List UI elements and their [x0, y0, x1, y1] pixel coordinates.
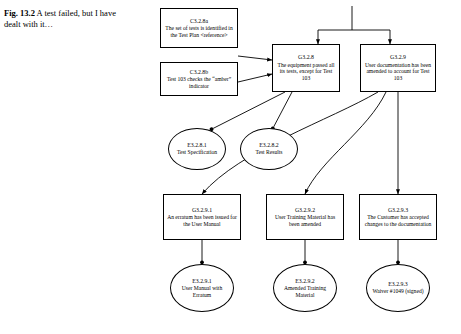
node-id: G3.2.9 — [390, 54, 406, 61]
node-id: G3.2.9.3 — [388, 207, 408, 214]
node-text: An erratum has been issued for the User … — [166, 214, 238, 227]
node-text: The Customer has accepted changes to the… — [362, 214, 434, 227]
node-g3-2-9-2[interactable]: G3.2.9.2 User Training Material has been… — [266, 194, 344, 240]
node-g3-2-9[interactable]: G3.2.9 User documentation has been amend… — [360, 44, 436, 92]
node-text: The set of tests is identified in the Te… — [163, 25, 235, 38]
node-g3-2-9-1[interactable]: G3.2.9.1 An erratum has been issued for … — [163, 194, 241, 240]
node-id: C3.2.8a — [190, 18, 208, 25]
figure-container: Fig. 13.2 A test failed, but I have deal… — [0, 0, 461, 334]
node-id: G3.2.9.2 — [295, 207, 315, 214]
node-id: E3.2.9.1 — [192, 278, 211, 285]
node-e3-2-9-2[interactable]: E3.2.9.2 Amended Training Material — [273, 264, 337, 312]
node-id: E3.2.8.1 — [187, 142, 206, 149]
node-id: G3.2.8 — [298, 54, 314, 61]
node-g3-2-8[interactable]: G3.2.8 The equipment passed all its test… — [272, 44, 340, 92]
figure-label: Fig. 13.2 — [4, 8, 35, 18]
figure-caption: Fig. 13.2 A test failed, but I have deal… — [4, 8, 124, 30]
node-text: Test Specification — [177, 149, 217, 156]
node-id: C3.2.8b — [190, 69, 208, 76]
node-text: User Manual with Erratum — [173, 285, 231, 298]
node-id: E3.2.9.3 — [388, 281, 407, 288]
node-id: G3.2.9.1 — [192, 207, 212, 214]
node-text: The equipment passed all its tests, exce… — [275, 62, 337, 82]
node-e3-2-9-1[interactable]: E3.2.9.1 User Manual with Erratum — [170, 264, 234, 312]
node-id: E3.2.9.2 — [295, 278, 314, 285]
node-g3-2-9-3[interactable]: G3.2.9.3 The Customer has accepted chang… — [359, 194, 437, 240]
node-text: User documentation has been amended to a… — [363, 62, 433, 82]
node-text: Amended Training Material — [276, 285, 334, 298]
node-c3-2-8b[interactable]: C3.2.8b Test 103 checks the “amber” indi… — [160, 62, 238, 96]
node-c3-2-8a[interactable]: C3.2.8a The set of tests is identified i… — [160, 8, 238, 48]
node-text: Test 103 checks the “amber” indicator — [163, 76, 235, 89]
node-text: User Training Material has been amended — [269, 214, 341, 227]
node-e3-2-8-1[interactable]: E3.2.8.1 Test Specification — [168, 128, 226, 170]
node-text: Waiver #1049 (signed) — [372, 288, 423, 295]
node-id: E3.2.8.2 — [259, 142, 278, 149]
node-text: Test Results — [255, 149, 282, 156]
node-e3-2-9-3[interactable]: E3.2.9.3 Waiver #1049 (signed) — [366, 264, 430, 312]
node-e3-2-8-2[interactable]: E3.2.8.2 Test Results — [240, 128, 298, 170]
